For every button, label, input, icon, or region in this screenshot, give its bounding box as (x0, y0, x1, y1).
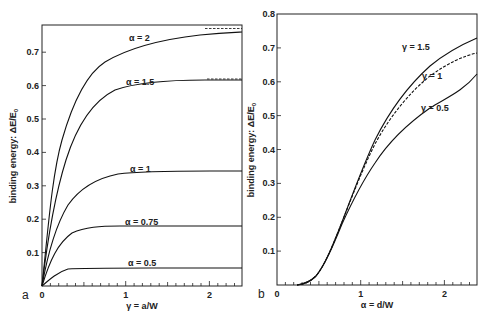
curve-label: α = 0.75 (125, 217, 158, 227)
curve-label: γ = 1.5 (402, 42, 430, 52)
curve-gamma-1 (297, 53, 477, 285)
curves-a (42, 32, 242, 286)
y-tick-label: 0.2 (26, 214, 39, 224)
y-tick-label: 0.5 (26, 114, 39, 124)
x-tick-label: 1 (358, 289, 363, 299)
curve-gamma-1.5 (297, 38, 477, 285)
x-ticks-b (285, 280, 469, 285)
y-tick-label: 0.3 (26, 181, 39, 191)
x-tick-label: 0 (274, 289, 279, 299)
panel-a: 0.1 0.2 0.3 0.4 0.5 0.6 0.7 0 1 2 a γ = … (8, 25, 242, 311)
y-tick-label: 0.1 (26, 248, 39, 258)
plot-frame-a (42, 25, 242, 286)
x-tick-label: 0 (39, 290, 44, 300)
y-ticks-a (42, 52, 46, 252)
curve-label: γ = 0.5 (421, 103, 449, 113)
asymptotes-a (205, 29, 242, 80)
x-axis-title-b: α = d/W (361, 300, 394, 310)
x-tick-label: 2 (442, 289, 447, 299)
curve-alpha-0.75 (42, 226, 242, 286)
y-axis-title-b: binding energy: ΔE/E0 (246, 102, 257, 197)
y-tick-label: 0.6 (262, 77, 275, 87)
y-ticks-b (277, 48, 281, 251)
y-tick-label: 0.4 (262, 145, 275, 155)
x-tick-label: 2 (207, 290, 212, 300)
y-tick-label: 0.8 (262, 9, 275, 19)
y-tick-label: 0.6 (26, 81, 39, 91)
y-tick-label: 0.5 (262, 111, 275, 121)
x-axis-title-a: γ = a/W (126, 301, 158, 311)
panel-label-a: a (22, 288, 29, 302)
curve-label: α = 0.5 (128, 258, 156, 268)
curve-alpha-2 (42, 32, 242, 286)
y-axis-title-a: binding energy: ΔE/E0 (8, 108, 19, 203)
panel-label-b: b (258, 287, 265, 301)
curve-label: γ = 1 (422, 71, 442, 81)
x-tick-label: 1 (123, 290, 128, 300)
curve-label: α = 2 (129, 33, 150, 43)
y-tick-label: 0.2 (262, 212, 275, 222)
curves-b (297, 38, 477, 285)
x-ticks-a (50, 281, 234, 286)
y-tick-label: 0.1 (262, 246, 275, 256)
plot-frame-b (277, 14, 477, 285)
curve-label: α = 1 (130, 164, 151, 174)
y-tick-label: 0.4 (26, 147, 39, 157)
curve-gamma-0.5 (297, 74, 477, 285)
y-tick-label: 0.7 (262, 43, 275, 53)
figure: 0.1 0.2 0.3 0.4 0.5 0.6 0.7 0 1 2 a γ = … (0, 0, 489, 317)
panel-b: 0.1 0.2 0.3 0.4 0.5 0.6 0.7 0.8 0 1 2 b … (246, 9, 477, 310)
y-tick-label: 0.3 (262, 178, 275, 188)
curve-label: α = 1.5 (126, 77, 154, 87)
y-tick-label: 0.7 (26, 47, 39, 57)
